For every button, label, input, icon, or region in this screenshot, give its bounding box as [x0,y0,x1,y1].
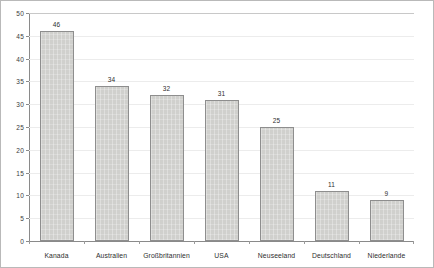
bar-value-label: 32 [163,85,171,92]
bar-value-label: 31 [218,90,226,97]
y-tick-label: 5 [20,215,24,222]
x-tick-mark [249,241,250,244]
y-tick-label: 0 [20,238,24,245]
x-tick-mark [84,241,85,244]
y-tick-label: 15 [16,169,24,176]
x-tick-mark [359,241,360,244]
x-tick-mark [194,241,195,244]
bar-value-label: 34 [108,76,116,83]
y-tick-label: 50 [16,10,24,17]
x-tick-mark [29,241,30,244]
x-category-label: Kanada [44,252,68,259]
bar-slot: 32 [139,13,194,241]
y-tick-label: 25 [16,124,24,131]
bar[interactable] [315,191,349,241]
bar[interactable] [260,127,294,241]
bar-value-label: 25 [273,117,281,124]
x-category-label: Neuseeland [258,252,295,259]
x-category-label: Australien [96,252,127,259]
bar[interactable] [40,31,74,241]
plot-area: 05101520253035404550 4634323125119 Kanad… [29,13,414,241]
x-category-label: USA [214,252,228,259]
bar-value-label: 46 [53,21,61,28]
x-category-label: Niederlande [368,252,406,259]
x-tick-mark [413,241,414,244]
bar-slot: 31 [194,13,249,241]
bar[interactable] [205,100,239,241]
bar-slot: 46 [29,13,84,241]
y-tick-label: 35 [16,78,24,85]
x-category-label: Deutschland [312,252,351,259]
bar-value-label: 11 [328,181,335,188]
x-tick-mark [139,241,140,244]
bar-slot: 11 [304,13,359,241]
bar[interactable] [370,200,404,241]
bar[interactable] [95,86,129,241]
bar-value-label: 9 [385,190,389,197]
y-tick-label: 10 [16,192,24,199]
y-tick-label: 30 [16,101,24,108]
y-tick-label: 45 [16,32,24,39]
bar-slot: 34 [84,13,139,241]
x-category-label: Großbritannien [143,252,190,259]
bar-slot: 25 [249,13,304,241]
bar[interactable] [150,95,184,241]
x-axis-baseline [29,241,414,242]
y-tick-label: 20 [16,146,24,153]
y-tick-label: 40 [16,55,24,62]
bar-chart-figure: 05101520253035404550 4634323125119 Kanad… [0,0,434,268]
bar-slot: 9 [359,13,414,241]
x-tick-mark [304,241,305,244]
